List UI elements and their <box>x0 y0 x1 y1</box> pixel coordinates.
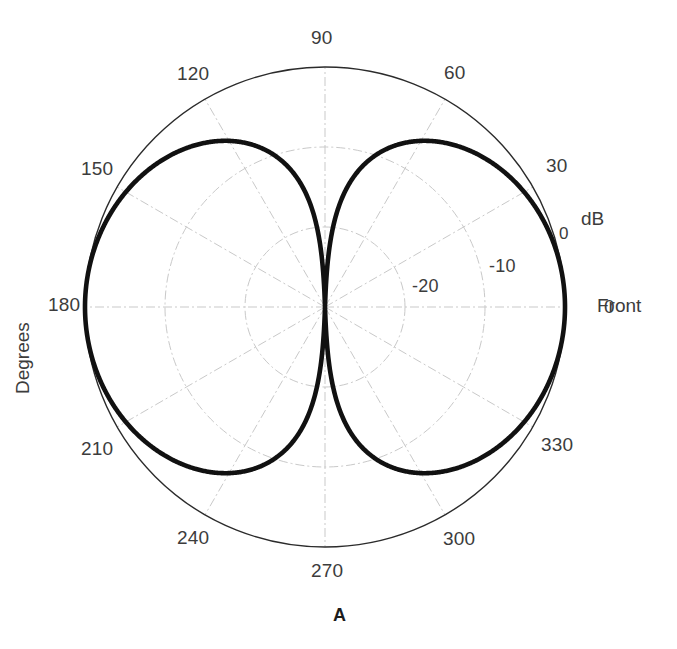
radial-tick-minus10: -10 <box>489 256 516 277</box>
angle-tick-330: 330 <box>541 434 573 456</box>
angle-tick-210: 210 <box>81 438 113 460</box>
radial-tick-0: 0 <box>559 224 569 244</box>
front-direction-label: Front <box>597 295 641 317</box>
angle-tick-240: 240 <box>177 527 209 549</box>
angle-tick-30: 30 <box>546 155 568 177</box>
angle-tick-180: 180 <box>48 294 80 316</box>
figure-caption: A <box>333 605 346 626</box>
radiation-pattern-curve <box>85 141 565 473</box>
radial-tick-minus20: -20 <box>412 276 439 297</box>
angle-tick-90: 90 <box>311 27 333 49</box>
angle-tick-150: 150 <box>81 158 113 180</box>
angle-tick-270: 270 <box>311 560 343 582</box>
angle-tick-120: 120 <box>177 63 209 85</box>
angle-tick-300: 300 <box>443 528 475 550</box>
angle-tick-60: 60 <box>444 62 466 84</box>
angular-axis-title: Degrees <box>12 322 34 394</box>
polar-chart-canvas <box>0 0 677 649</box>
radial-axis-title: dB <box>581 208 604 230</box>
polar-plot-figure: 0 30 60 90 120 150 180 210 240 270 300 3… <box>0 0 677 649</box>
